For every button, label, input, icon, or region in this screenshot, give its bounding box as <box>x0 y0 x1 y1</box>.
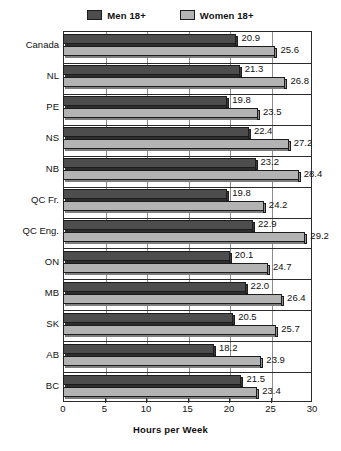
bar-women[interactable]: 26.4 <box>63 294 282 304</box>
bar-women[interactable]: 24.7 <box>63 263 268 273</box>
bar-shadow <box>65 180 301 182</box>
category-row: 20.925.6 <box>63 31 312 62</box>
category-label: QC Fr. <box>0 194 59 205</box>
x-tick-mark <box>229 398 230 403</box>
bar-men[interactable]: 21.5 <box>63 375 241 385</box>
bar-value-label: 24.7 <box>273 261 292 272</box>
bar-end-cap <box>298 172 301 182</box>
legend-label-men: Men 18+ <box>107 10 145 21</box>
women-swatch-icon <box>180 10 195 20</box>
bar-shadow <box>65 118 260 120</box>
category-label: PE <box>0 101 59 112</box>
bar-value-label: 21.5 <box>246 373 265 384</box>
category-label: Canada <box>0 39 59 50</box>
category-label: NS <box>0 132 59 143</box>
bar-end-cap <box>260 358 263 368</box>
x-tick-label: 25 <box>265 403 276 414</box>
bar-value-label: 27.2 <box>294 137 313 148</box>
bar-value-label: 23.5 <box>263 106 282 117</box>
bar-women[interactable]: 25.6 <box>63 46 275 56</box>
legend-item-women[interactable]: Women 18+ <box>180 10 254 21</box>
bar-body <box>63 77 285 87</box>
bar-men[interactable]: 19.8 <box>63 189 227 199</box>
men-swatch-icon <box>87 10 102 20</box>
bar-end-cap <box>275 327 278 337</box>
bar-women[interactable]: 27.2 <box>63 139 289 149</box>
bar-women[interactable]: 28.4 <box>63 170 299 180</box>
bar-value-label: 19.8 <box>232 94 251 105</box>
category-row: 21.326.8 <box>63 62 312 93</box>
bar-men[interactable]: 20.9 <box>63 34 236 44</box>
category-row: 20.124.7 <box>63 247 312 278</box>
bar-value-label: 22.9 <box>258 218 277 229</box>
category-label: NL <box>0 70 59 81</box>
bar-men[interactable]: 19.8 <box>63 96 227 106</box>
bar-body <box>63 356 261 366</box>
bar-women[interactable]: 29.2 <box>63 232 305 242</box>
bar-body <box>63 65 240 75</box>
bar-end-cap <box>232 315 235 325</box>
bar-shadow <box>65 87 287 89</box>
bar-end-cap <box>263 203 266 213</box>
bar-body <box>63 158 256 168</box>
bar-shadow <box>65 335 278 337</box>
bar-men[interactable]: 21.3 <box>63 65 240 75</box>
bar-body <box>63 139 289 149</box>
bar-women[interactable]: 23.5 <box>63 108 258 118</box>
category-label: AB <box>0 349 59 360</box>
bar-men[interactable]: 22.9 <box>63 220 253 230</box>
bar-shadow <box>65 56 277 58</box>
x-tick-mark <box>105 398 106 403</box>
x-tick-mark <box>146 398 147 403</box>
bar-men[interactable]: 20.1 <box>63 251 230 261</box>
category-axis: CanadaNLPENSNBQC Fr.QC Eng.ONMBSKABBC <box>0 31 59 402</box>
bar-shadow <box>65 397 259 399</box>
bar-end-cap <box>239 67 242 77</box>
x-tick-label: 5 <box>102 403 107 414</box>
category-row: 20.525.7 <box>63 309 312 340</box>
category-label: BC <box>0 380 59 391</box>
x-tick-mark <box>188 398 189 403</box>
bar-body <box>63 201 264 211</box>
legend-item-men[interactable]: Men 18+ <box>87 10 145 21</box>
bar-value-label: 25.6 <box>280 44 299 55</box>
bar-men[interactable]: 22.4 <box>63 127 249 137</box>
bar-value-label: 22.0 <box>251 280 270 291</box>
bar-value-label: 23.4 <box>262 385 281 396</box>
bar-body <box>63 325 276 335</box>
bar-end-cap <box>240 377 243 387</box>
bar-men[interactable]: 23.2 <box>63 158 256 168</box>
category-row: 18.223.9 <box>63 340 312 371</box>
bar-end-cap <box>288 141 291 151</box>
bar-women[interactable]: 25.7 <box>63 325 276 335</box>
category-label: SK <box>0 318 59 329</box>
bar-body <box>63 344 214 354</box>
bar-value-label: 24.2 <box>269 199 288 210</box>
bar-shadow <box>65 366 263 368</box>
bar-body <box>63 251 230 261</box>
category-row: 22.929.2 <box>63 217 312 248</box>
bar-women[interactable]: 23.4 <box>63 387 257 397</box>
x-tick-label: 30 <box>307 403 318 414</box>
bar-women[interactable]: 24.2 <box>63 201 264 211</box>
x-tick-label: 20 <box>224 403 235 414</box>
bar-value-label: 28.4 <box>304 168 323 179</box>
x-tick-mark <box>271 398 272 403</box>
bar-men[interactable]: 20.5 <box>63 313 233 323</box>
bar-men[interactable]: 18.2 <box>63 344 214 354</box>
bar-body <box>63 220 253 230</box>
bar-body <box>63 294 282 304</box>
bar-end-cap <box>213 346 216 356</box>
bar-women[interactable]: 26.8 <box>63 77 285 87</box>
bar-body <box>63 34 236 44</box>
bar-end-cap <box>304 234 307 244</box>
bar-value-label: 25.7 <box>281 323 300 334</box>
bar-end-cap <box>252 222 255 232</box>
bar-body <box>63 232 305 242</box>
bar-value-label: 21.3 <box>245 63 264 74</box>
bar-women[interactable]: 23.9 <box>63 356 261 366</box>
chart-legend: Men 18+ Women 18+ <box>0 6 341 24</box>
bar-men[interactable]: 22.0 <box>63 282 246 292</box>
bar-body <box>63 189 227 199</box>
bar-value-label: 19.8 <box>232 187 251 198</box>
